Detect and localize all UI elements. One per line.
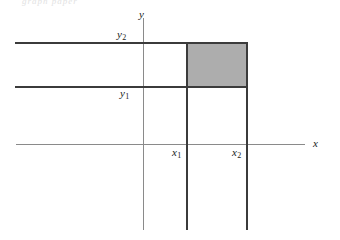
x2-tick-label: x2 [232, 147, 241, 158]
y1-tick-label: y1 [120, 88, 129, 99]
x2-tick-label-sub: 2 [237, 151, 241, 160]
y-axis-label-text: y [139, 8, 144, 20]
x-axis-label-text: x [313, 137, 318, 149]
y-axis-label: y [139, 9, 144, 20]
x1-tick-label: x1 [172, 147, 181, 158]
y1-tick-label-sub: 1 [125, 92, 129, 101]
y2-tick-label: y2 [117, 29, 126, 40]
shaded-region-rect [187, 44, 247, 87]
y2-tick-label-sub: 2 [122, 33, 126, 42]
figure-canvas: graph paper y y2 y1 x1 x2 x [0, 0, 340, 240]
x-axis-label: x [313, 138, 318, 149]
x1-tick-label-sub: 1 [177, 151, 181, 160]
coordinate-plot [0, 0, 340, 240]
